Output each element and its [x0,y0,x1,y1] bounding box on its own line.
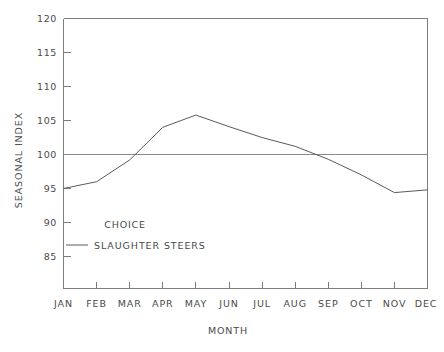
x-tick-label-feb: FEB [86,298,107,309]
x-tick-label-nov: NOV [383,298,407,309]
x-tick-label-jul: JUL [252,298,271,309]
y-tick-label-115: 115 [37,47,57,58]
x-tick-label-mar: MAR [118,298,142,309]
x-tick-label-may: MAY [185,298,207,309]
chart-legend: CHOICE SLAUGHTER STEERS [66,219,206,251]
seasonal-index-chart: 120 115 110 105 100 95 90 85 [0,0,444,352]
x-tick-label-oct: OCT [350,298,373,309]
legend-label-slaughter-steers: SLAUGHTER STEERS [94,240,206,251]
y-tick-label-100: 100 [37,149,57,160]
x-tick-label-sep: SEP [318,298,338,309]
legend-title: CHOICE [104,219,146,230]
x-axis-tick-labels: JAN FEB MAR APR MAY JUN JUL AUG SEP OCT … [53,298,437,309]
y-axis-ticks: 120 115 110 105 100 95 90 85 [37,13,70,262]
x-tick-label-aug: AUG [283,298,307,309]
y-tick-label-120: 120 [37,13,57,24]
y-tick-label-95: 95 [44,183,57,194]
y-axis-title: SEASONAL INDEX [13,112,24,208]
chart-svg: 120 115 110 105 100 95 90 85 [0,0,444,352]
series-line-slaughter-steers [64,115,428,193]
y-tick-label-90: 90 [44,217,57,228]
x-tick-label-apr: APR [152,298,174,309]
x-tick-label-dec: DEC [415,298,438,309]
x-axis-ticks [64,282,428,289]
x-tick-label-jan: JAN [53,298,73,309]
y-tick-label-110: 110 [37,81,57,92]
y-tick-label-105: 105 [37,115,57,126]
y-tick-label-85: 85 [44,251,57,262]
x-axis-title: MONTH [208,325,248,336]
x-tick-label-jun: JUN [218,298,239,309]
